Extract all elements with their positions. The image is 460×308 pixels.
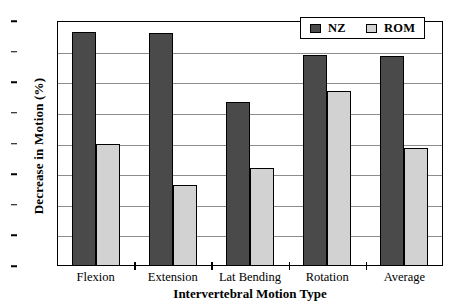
x-axis-tick-label: Lat Bending — [211, 270, 288, 285]
x-axis-tick-labels: FlexionExtensionLat BendingRotationAvera… — [57, 270, 443, 285]
x-axis-tick-label: Average — [366, 270, 443, 285]
bar-rom-flexion — [96, 144, 120, 267]
legend-label-nz: NZ — [328, 21, 346, 36]
x-axis-tick-label: Rotation — [289, 270, 366, 285]
y-axis-tick-mark — [11, 204, 17, 206]
bar-nz-flexion — [72, 32, 96, 266]
y-axis-tick-mark — [11, 235, 17, 237]
legend-label-rom: ROM — [384, 21, 415, 36]
x-axis-tick-mark — [289, 262, 291, 270]
bar-group — [57, 21, 134, 266]
y-axis-tick-mark — [11, 20, 17, 22]
x-axis-tick-label: Flexion — [57, 270, 134, 285]
x-axis-tick-mark — [211, 262, 213, 270]
y-axis-tick-mark — [11, 143, 17, 145]
bar-nz-rotation — [303, 55, 327, 266]
bar-rom-lat-bending — [250, 168, 274, 266]
bar-group — [289, 21, 366, 266]
bar-nz-lat-bending — [226, 102, 250, 266]
y-axis-tick-mark — [11, 82, 17, 84]
legend-item-nz: NZ — [310, 21, 346, 36]
y-axis-tick-mark — [11, 173, 17, 175]
y-axis-tick-mark — [11, 265, 17, 267]
y-axis-tick-mark — [11, 51, 17, 53]
x-axis-tick-label: Extension — [134, 270, 211, 285]
legend-item-rom: ROM — [366, 21, 415, 36]
bar-chart: Decrease in Motion (%) 01020304050607080… — [0, 0, 460, 308]
bar-group — [211, 21, 288, 266]
x-axis-tick-mark — [134, 262, 136, 270]
chart-legend: NZ ROM — [300, 17, 425, 39]
x-axis-title: Intervertebral Motion Type — [57, 286, 443, 302]
y-axis-title: Decrease in Motion (%) — [31, 31, 47, 261]
legend-swatch-rom-icon — [366, 24, 377, 33]
bar-nz-extension — [149, 33, 173, 266]
y-axis-tick-mark — [11, 112, 17, 114]
bar-rom-extension — [173, 185, 197, 266]
bar-group — [134, 21, 211, 266]
bar-groups — [57, 21, 443, 266]
legend-swatch-nz-icon — [310, 24, 321, 33]
x-axis-tick-mark — [366, 262, 368, 270]
bar-rom-rotation — [327, 91, 351, 266]
bar-nz-average — [380, 56, 404, 266]
bar-group — [366, 21, 443, 266]
bar-rom-average — [404, 148, 428, 266]
